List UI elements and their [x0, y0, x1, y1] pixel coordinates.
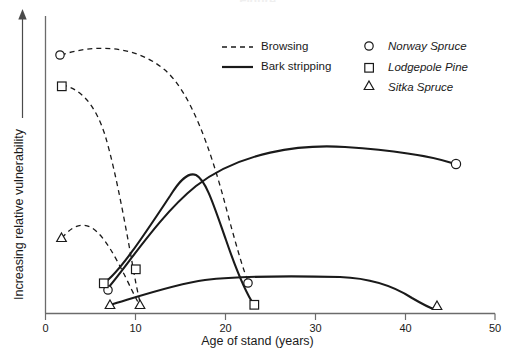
curve-sitka-spruce-browsing: [62, 225, 140, 306]
chart-canvas: [0, 0, 515, 360]
legend-label-norway-spruce: Norway Spruce: [388, 40, 467, 52]
marker-norway-spruce: [56, 51, 64, 59]
legend-label-sitka-spruce: Sitka Spruce: [388, 81, 453, 93]
curve-sitka-spruce-bark-stripping: [110, 276, 434, 309]
marker-sitka-spruce: [432, 301, 442, 310]
marker-norway-spruce: [451, 159, 460, 168]
x-tick-label-40: 40: [391, 322, 421, 334]
x-tick-label-20: 20: [211, 322, 241, 334]
legend-square-icon: [365, 64, 374, 73]
marker-lodgepole-pine: [100, 279, 109, 288]
legend-label-lodgepole-pine: Lodgepole Pine: [388, 61, 468, 73]
chart-figure: Figure: [0, 0, 515, 360]
legend-label-browsing: Browsing: [261, 40, 308, 52]
x-tick-label-0: 0: [31, 322, 61, 334]
up-arrow-head: [18, 9, 26, 20]
legend-label-bark-stripping: Bark stripping: [261, 60, 331, 72]
axes-group: [18, 9, 495, 320]
curve-norway-spruce-browsing: [61, 48, 248, 281]
x-tick-label-30: 30: [301, 322, 331, 334]
curve-norway-spruce-bark-stripping: [108, 146, 452, 288]
marker-norway-spruce: [244, 279, 252, 287]
x-axis-ticks: [46, 314, 496, 321]
marker-lodgepole-pine: [250, 301, 259, 310]
x-axis-title: Age of stand (years): [0, 334, 515, 348]
x-tick-label-50: 50: [480, 322, 510, 334]
legend-circle-icon: [365, 42, 373, 50]
x-tick-label-10: 10: [121, 322, 151, 334]
legend-triangle-icon: [364, 81, 374, 90]
curve-lodgepole-pine-browsing: [62, 85, 141, 306]
y-direction-arrow: [18, 9, 26, 118]
marker-lodgepole-pine: [132, 265, 141, 274]
marker-lodgepole-pine: [58, 82, 67, 91]
marker-sitka-spruce: [135, 300, 145, 309]
y-axis-title: Increasing relative vulnerability: [12, 129, 26, 300]
